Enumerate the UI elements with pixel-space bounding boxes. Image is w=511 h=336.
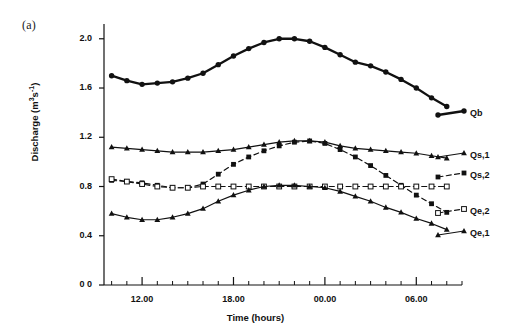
legend-marker-layer: [435, 108, 467, 237]
data-point-marker: [429, 201, 434, 206]
data-point-marker: [383, 173, 388, 178]
data-point-marker: [109, 210, 115, 215]
series-line: [112, 185, 447, 229]
data-point-marker: [185, 185, 190, 190]
data-point-marker: [414, 85, 419, 90]
legend-entry-qe-2: [436, 207, 467, 216]
data-point-marker: [338, 184, 343, 189]
data-point-marker: [262, 148, 267, 153]
data-point-marker: [444, 210, 449, 215]
data-point-marker: [231, 162, 236, 167]
legend-marker-sample: [436, 175, 441, 180]
data-point-marker: [216, 172, 221, 177]
series-line: [112, 39, 447, 107]
data-point-marker: [353, 59, 358, 64]
data-point-marker: [338, 147, 343, 152]
legend-marker-sample: [462, 207, 467, 212]
data-point-marker: [277, 143, 282, 148]
data-point-marker: [216, 184, 221, 189]
axis-frame: [104, 24, 462, 285]
data-point-marker: [124, 179, 129, 184]
data-point-marker: [444, 184, 449, 189]
legend-entry-qs-1: [435, 150, 467, 159]
data-point-marker: [414, 184, 419, 189]
data-point-marker: [109, 144, 115, 149]
legend-line-sample: [438, 111, 464, 115]
legend-line-sample: [438, 153, 464, 157]
data-point-marker: [170, 185, 175, 190]
data-point-marker: [292, 36, 297, 41]
data-point-marker: [231, 53, 236, 58]
data-point-marker: [276, 36, 281, 41]
data-point-marker: [261, 40, 266, 45]
data-point-marker: [246, 155, 251, 160]
data-point-marker: [307, 39, 312, 44]
data-point-marker: [322, 45, 327, 50]
legend-marker-sample: [461, 150, 467, 155]
data-point-marker: [414, 193, 419, 198]
legend-entry-qb: [435, 108, 466, 117]
data-point-marker: [368, 184, 373, 189]
series-qe-1: [109, 182, 450, 232]
legend-marker-sample: [436, 211, 441, 216]
legend-marker-sample: [461, 228, 467, 233]
data-point-marker: [337, 52, 342, 57]
data-point-marker: [109, 73, 114, 78]
legend-entry-qe-1: [435, 228, 467, 237]
data-point-marker: [139, 82, 144, 87]
series-qs-2: [109, 139, 449, 215]
data-point-marker: [200, 71, 205, 76]
legend-line-sample: [438, 173, 464, 177]
legend-marker-sample: [435, 112, 440, 117]
data-point-marker: [185, 75, 190, 80]
data-point-marker: [322, 141, 327, 146]
data-point-marker: [429, 184, 434, 189]
data-point-marker: [398, 77, 403, 82]
legend-line-sample: [438, 231, 464, 235]
data-point-marker: [201, 184, 206, 189]
data-point-marker: [368, 163, 373, 168]
data-point-marker: [353, 155, 358, 160]
data-point-marker: [429, 95, 434, 100]
data-point-marker: [353, 184, 358, 189]
data-point-marker: [444, 104, 449, 109]
data-point-marker: [155, 184, 160, 189]
series-qb: [109, 36, 450, 109]
legend-marker-sample: [462, 171, 467, 176]
data-point-marker: [124, 78, 129, 83]
data-series-layer: [109, 36, 450, 232]
legend-entry-qs-2: [436, 171, 467, 180]
legend-line-sample: [438, 209, 464, 213]
data-point-marker: [292, 140, 297, 145]
data-point-marker: [170, 79, 175, 84]
y-tick-marks: [99, 39, 104, 285]
figure-panel-a: (a) Discharge (m3s-1) Time (hours) 2.0 1…: [0, 0, 511, 336]
data-point-marker: [231, 184, 236, 189]
data-point-marker: [383, 69, 388, 74]
data-point-marker: [155, 80, 160, 85]
data-point-marker: [140, 182, 145, 187]
data-point-marker: [383, 184, 388, 189]
data-point-marker: [216, 62, 221, 67]
data-point-marker: [399, 184, 404, 189]
series-qs-1: [109, 138, 450, 161]
data-point-marker: [246, 46, 251, 51]
data-point-marker: [368, 63, 373, 68]
data-point-marker: [307, 139, 312, 144]
legend-marker-sample: [461, 108, 466, 113]
plot-canvas: [0, 0, 511, 336]
data-point-marker: [109, 177, 114, 182]
